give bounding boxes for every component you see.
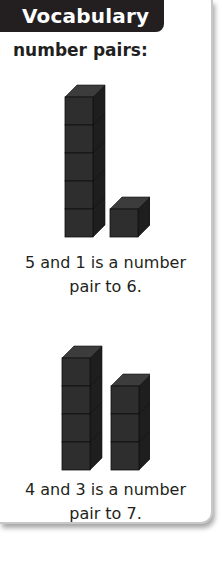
caption-line: 4 and 3 is a number (0, 478, 211, 502)
cube-towers-5-and-1 (60, 80, 150, 240)
vocabulary-card: Vocabulary number pairs: 5 and 1 is a nu… (0, 0, 213, 524)
vocabulary-header: Vocabulary (0, 0, 164, 32)
caption-line: 5 and 1 is a number (0, 251, 211, 275)
cube-towers-4-and-3 (60, 335, 150, 475)
caption-line: pair to 7. (0, 502, 211, 526)
vocabulary-term: number pairs: (13, 40, 148, 60)
example-caption-2: 4 and 3 is a number pair to 7. (0, 478, 211, 526)
caption-line: pair to 6. (0, 275, 211, 299)
example-caption-1: 5 and 1 is a number pair to 6. (0, 251, 211, 299)
